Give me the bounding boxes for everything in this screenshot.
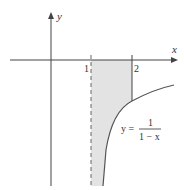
x-axis-arrow-icon [171, 57, 178, 63]
x-axis-label: x [171, 43, 177, 55]
tick-label-1: 1 [84, 63, 89, 74]
y-axis-label: y [56, 10, 62, 22]
equation-denominator: 1 − x [139, 131, 160, 142]
equation-numerator: 1 [148, 117, 153, 128]
equation-lhs: y = [121, 123, 135, 134]
figure: y x 1 2 y = 1 1 − x [0, 0, 184, 190]
tick-label-2: 2 [134, 63, 139, 74]
y-axis-arrow-icon [48, 12, 54, 19]
